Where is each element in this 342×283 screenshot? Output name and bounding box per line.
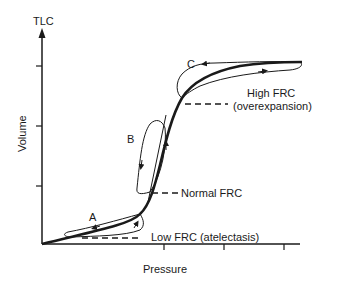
x-axis-label: Pressure: [143, 263, 187, 275]
y-axis-arrow-icon: [39, 28, 46, 38]
loop-b-label: B: [127, 133, 134, 145]
tlc-label: TLC: [33, 15, 54, 27]
loop-a-label: A: [89, 211, 97, 223]
low-frc-label: Low FRC (atelectasis): [151, 231, 259, 243]
pressure-volume-diagram: TLC Volume Pressure A B C High FRC (over…: [0, 0, 342, 283]
high-frc-label: High FRC: [247, 87, 295, 99]
y-axis-label: Volume: [16, 115, 28, 152]
loop-c-label: C: [187, 58, 195, 70]
normal-frc-label: Normal FRC: [181, 187, 242, 199]
y-axis: [36, 28, 46, 244]
loop-a: [65, 214, 144, 237]
x-axis: [42, 244, 300, 250]
high-frc-sublabel: (overexpansion): [233, 100, 312, 112]
